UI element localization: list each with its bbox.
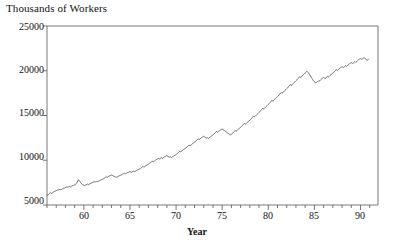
x-tick-label: 80 — [253, 211, 283, 221]
x-tick-label: 60 — [69, 211, 99, 221]
x-tick-label: 85 — [299, 211, 329, 221]
x-axis-title: Year — [0, 226, 394, 237]
x-tick-label: 75 — [207, 211, 237, 221]
chart-figure: Thousands of Workers 25000 20000 15000 1… — [0, 0, 394, 246]
x-axis-tick-labels: 60 65 70 75 80 85 90 — [0, 0, 394, 246]
x-tick-label: 70 — [161, 211, 191, 221]
x-tick-label: 65 — [115, 211, 145, 221]
x-tick-label: 90 — [345, 211, 375, 221]
